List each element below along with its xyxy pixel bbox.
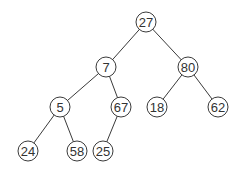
- node-label: 24: [21, 144, 35, 159]
- node-label: 25: [96, 144, 110, 159]
- node-label: 27: [139, 15, 153, 30]
- tree-node-62: 62: [208, 97, 228, 117]
- tree-node-18: 18: [147, 97, 167, 117]
- node-label: 18: [150, 100, 164, 115]
- node-label: 7: [102, 60, 109, 75]
- tree-node-5: 5: [50, 97, 70, 117]
- tree-edges: [28, 22, 218, 151]
- tree-node-27: 27: [136, 12, 156, 32]
- tree-node-80: 80: [178, 57, 198, 77]
- tree-node-67: 67: [111, 97, 131, 117]
- tree-node-24: 24: [18, 141, 38, 161]
- tree-node-7: 7: [96, 57, 116, 77]
- node-label: 67: [114, 100, 128, 115]
- binary-tree-diagram: 277805671862245825: [0, 0, 245, 175]
- node-label: 80: [181, 60, 195, 75]
- tree-node-25: 25: [93, 141, 113, 161]
- node-label: 58: [70, 144, 84, 159]
- node-label: 5: [56, 100, 63, 115]
- tree-node-58: 58: [67, 141, 87, 161]
- node-label: 62: [211, 100, 225, 115]
- tree-nodes: 277805671862245825: [18, 12, 228, 161]
